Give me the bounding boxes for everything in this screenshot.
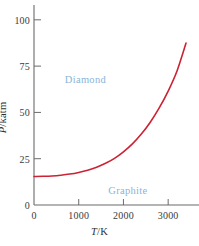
y-axis-title: P/katm: [0, 102, 8, 134]
x-axis-units: /K: [97, 226, 108, 237]
y-tick-label: 75: [20, 61, 30, 72]
x-tick-label: 2000: [113, 210, 134, 221]
x-tick-label: 1000: [68, 210, 89, 221]
x-axis-title: T/K: [91, 226, 108, 237]
y-axis-units: /katm: [0, 102, 8, 127]
y-axis-symbol: P: [0, 127, 8, 134]
tick-marks: [34, 20, 168, 205]
y-tick-label: 25: [20, 153, 30, 164]
y-tick-label: 0: [25, 200, 30, 211]
region-label-diamond: Diamond: [65, 74, 106, 85]
phase-boundary-curve: [34, 43, 186, 177]
y-tick-label: 100: [14, 14, 30, 25]
x-tick-label: 0: [31, 210, 36, 221]
region-label-graphite: Graphite: [108, 185, 147, 196]
phase-diagram-figure: 0255075100 0100020003000 P/katm T/K Diam…: [0, 0, 199, 246]
x-tick-label: 3000: [158, 210, 179, 221]
y-tick-label: 50: [20, 107, 30, 118]
